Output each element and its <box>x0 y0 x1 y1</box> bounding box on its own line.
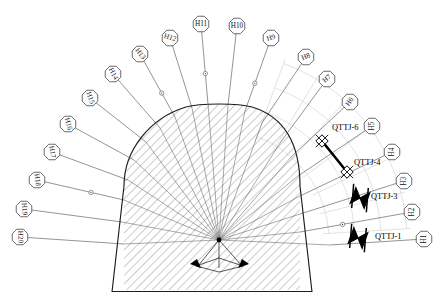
measurement-point-label[interactable]: H12 <box>162 30 178 46</box>
measurement-point-label[interactable]: H1 <box>416 231 432 247</box>
measurement-leader-line <box>262 57 306 123</box>
measurement-point-label[interactable]: H18 <box>29 172 45 188</box>
instrument-label: QTTJ-6 <box>332 123 359 132</box>
label-text: H5 <box>368 121 376 130</box>
measurement-leader-line <box>300 212 412 232</box>
measurement-leader-line <box>68 124 134 160</box>
instrument-label: QTTJ-4 <box>354 158 381 167</box>
grid-ray <box>302 125 373 178</box>
instrument-marker[interactable] <box>316 135 328 147</box>
label-text: H4 <box>388 147 396 156</box>
measurement-point-label[interactable]: H9 <box>263 30 279 46</box>
label-text: H19 <box>20 203 29 216</box>
measurement-point-label[interactable]: H6 <box>342 94 358 110</box>
measurement-point-label[interactable]: H10 <box>229 18 245 34</box>
measurement-leader-line <box>140 54 175 117</box>
label-text: H11 <box>195 20 208 28</box>
label-text: H1 <box>420 234 428 243</box>
instrument-marker[interactable] <box>341 166 353 178</box>
measurement-leader-line <box>37 180 124 200</box>
measurement-leader-line <box>113 74 160 128</box>
label-text: H20 <box>16 231 24 244</box>
measurement-leader-line <box>20 237 124 244</box>
measurement-leader-line <box>52 152 128 180</box>
instrument-label: QTTJ-3 <box>371 192 398 201</box>
measurement-point-label[interactable]: H19 <box>16 201 32 217</box>
gauge-point-center <box>90 192 91 193</box>
label-text: H10 <box>231 22 244 30</box>
measurement-leader-line <box>201 24 208 104</box>
measurement-point-label[interactable]: H3 <box>396 173 412 189</box>
measurement-point-label[interactable]: H11 <box>193 16 209 32</box>
measurement-leader-line <box>245 38 271 111</box>
gauge-point-center <box>342 224 343 225</box>
measurement-point-label[interactable]: H4 <box>384 144 400 160</box>
gauge-point-center <box>254 83 255 84</box>
measurement-point-label[interactable]: H7 <box>319 71 335 87</box>
label-text: H3 <box>400 176 408 185</box>
instrument-label: QTTJ-1 <box>375 232 402 241</box>
tunnel-body <box>112 104 312 292</box>
gauge-point-center <box>161 92 162 93</box>
measurement-point-label[interactable]: H14 <box>105 66 121 82</box>
measurement-point-label[interactable]: H17 <box>44 144 60 160</box>
label-text: H2 <box>408 207 416 216</box>
gauge-point-center <box>205 73 206 74</box>
measurement-point-label[interactable]: H8 <box>298 49 314 65</box>
measurement-point-label[interactable]: H15 <box>82 90 98 106</box>
measurement-leader-line <box>170 38 192 108</box>
measurement-point-label[interactable]: H13 <box>132 46 148 62</box>
measurement-point-label[interactable]: H5 <box>364 118 380 134</box>
measurement-leader-line <box>24 209 122 222</box>
tunnel-monitoring-diagram: QTTJ-6QTTJ-4QTTJ-3QTTJ-1 H1H2H3H4H5H6H7H… <box>0 0 441 296</box>
measurement-point-label[interactable]: H20 <box>12 229 28 245</box>
measurement-leader-line <box>228 26 237 105</box>
diagram-canvas: QTTJ-6QTTJ-4QTTJ-3QTTJ-1 H1H2H3H4H5H6H7H… <box>0 0 441 296</box>
measurement-leader-line <box>90 98 146 142</box>
measurement-point-label[interactable]: H16 <box>60 116 76 132</box>
tunnel-hatch-fill <box>124 104 300 290</box>
station-origin-point <box>217 238 222 243</box>
instrument-marker[interactable] <box>344 223 373 253</box>
measurement-point-label[interactable]: H2 <box>404 204 420 220</box>
